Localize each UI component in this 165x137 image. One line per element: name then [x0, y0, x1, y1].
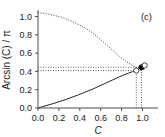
y-tick-label-2: 0.4: [19, 67, 32, 77]
y-axis-tick-labels: 0.0 0.2 0.4 0.6 0.8 1.0: [19, 12, 32, 114]
x-tick-label-5: 1.0: [136, 113, 149, 123]
open-circle-lower-marker: [134, 68, 139, 73]
curve-upper-branch: [38, 13, 145, 70]
y-tick-label-0: 0.0: [19, 103, 32, 113]
axis-spines: [38, 10, 158, 108]
x-tick-label-2: 0.4: [74, 113, 87, 123]
panel-label: (c): [141, 11, 152, 22]
y-tick-label-1: 0.2: [19, 85, 32, 95]
upper-branch-path: [38, 13, 145, 70]
curve-lower-branch: [38, 71, 136, 108]
y-tick-label-3: 0.6: [19, 48, 32, 58]
data-markers: [134, 63, 148, 73]
x-axis-title: C: [94, 125, 102, 136]
lower-branch-path: [38, 71, 136, 108]
y-tick-label-5: 1.0: [19, 12, 32, 22]
x-tick-label-0: 0.0: [32, 113, 45, 123]
x-tick-label-1: 0.2: [53, 113, 66, 123]
figure-panel-c: 0.0 0.2 0.4 0.6 0.8 1.0 0.0 0.2 0.4 0.6 …: [0, 0, 165, 137]
x-tick-label-3: 0.6: [94, 113, 107, 123]
chart-canvas: 0.0 0.2 0.4 0.6 0.8 1.0 0.0 0.2 0.4 0.6 …: [0, 0, 165, 137]
x-axis-tick-labels: 0.0 0.2 0.4 0.6 0.8 1.0: [32, 113, 149, 123]
y-tick-label-4: 0.8: [19, 30, 32, 40]
open-circle-upper-marker: [142, 63, 147, 68]
y-axis-title: Arcsin (C) / π: [1, 30, 12, 90]
x-tick-label-4: 0.8: [115, 113, 128, 123]
